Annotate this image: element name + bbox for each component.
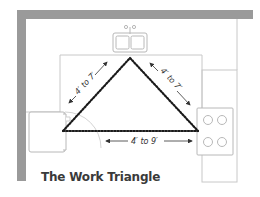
dimension-fridge-sink: 4′ to 7′ (69, 62, 107, 103)
label-fridge-sink: 4′ to 7′ (73, 70, 98, 96)
left-wall (17, 10, 26, 181)
top-wall (17, 10, 253, 19)
diagram-title: The Work Triangle (41, 170, 160, 184)
edge-fridge-sink (63, 58, 130, 131)
label-fridge-stove: 4′ to 9′ (131, 137, 158, 146)
dimension-fridge-stove: 4′ to 9′ (106, 137, 192, 146)
sink-icon (113, 25, 147, 52)
work-triangle-diagram: 4′ to 7′ 4′ to 7′ 4′ to 9′ The Work Tria… (0, 0, 260, 197)
label-sink-stove: 4′ to 7′ (159, 66, 184, 92)
dimension-sink-stove: 4′ to 7′ (150, 63, 190, 105)
stove-icon (197, 108, 233, 155)
